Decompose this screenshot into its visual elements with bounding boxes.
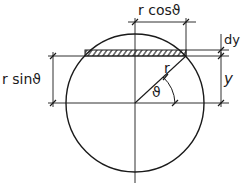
label-dy: dy <box>224 32 240 47</box>
label-theta: ϑ <box>152 84 161 100</box>
label-rsin: r sinϑ <box>2 71 41 87</box>
label-r: r <box>164 60 170 76</box>
theta-arc <box>163 77 175 103</box>
label-y: y <box>223 70 234 88</box>
hatched-strip <box>85 50 186 56</box>
label-rcos: r cosϑ <box>138 2 180 18</box>
circle-strip-diagram: r cosϑ r sinϑ dy y r ϑ <box>0 0 244 191</box>
